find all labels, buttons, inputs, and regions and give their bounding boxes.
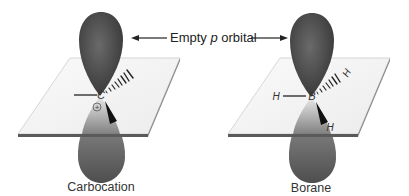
carbocation-caption: Carbocation — [67, 180, 134, 194]
charge-label: + — [95, 103, 100, 112]
annotation-suffix: orbital — [218, 30, 257, 45]
plane-edge — [18, 134, 148, 137]
annotation-italic-p: p — [210, 30, 217, 45]
empty-p-orbital-label: Empty p orbital — [170, 30, 257, 45]
right-arrowhead-icon — [280, 35, 288, 41]
orbital-diagram: C + H — [0, 0, 409, 196]
central-atom-label: B — [308, 90, 315, 102]
substituent-front-h: H — [326, 122, 334, 133]
central-atom-label: C — [97, 89, 105, 101]
substituent-left-h: H — [272, 91, 280, 102]
annotation-prefix: Empty — [170, 30, 210, 45]
borane-caption: Borane — [291, 181, 331, 195]
left-arrowhead-icon — [131, 35, 139, 41]
plane-edge — [228, 134, 358, 137]
